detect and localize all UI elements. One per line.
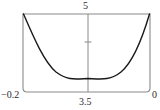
x-axis-max-label: 0	[152, 90, 157, 100]
x-axis-mid-label: 3.5	[79, 97, 92, 107]
plot-curve	[24, 14, 150, 79]
plot-screenshot: 5 −0.2 3.5 0	[0, 0, 160, 110]
y-axis-max-label: 5	[83, 1, 88, 11]
x-axis-min-label: −0.2	[1, 90, 19, 100]
plot-canvas	[0, 0, 160, 110]
